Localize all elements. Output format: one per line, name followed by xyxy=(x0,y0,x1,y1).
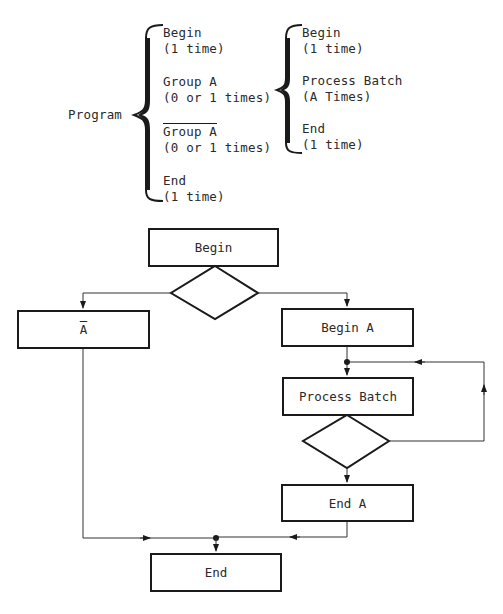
flow-box-not-a-label: A xyxy=(80,322,88,337)
level1-group-a-title: Group A xyxy=(163,74,271,90)
flow-box-begin-a-label: Begin A xyxy=(321,320,374,335)
flow-box-end-label: End xyxy=(205,565,228,580)
level1-not-group-a-title: Group A xyxy=(163,123,217,139)
flow-box-begin-label: Begin xyxy=(195,240,233,255)
flow-box-end-a-label: End A xyxy=(329,496,367,511)
flow-box-end: End xyxy=(150,553,282,592)
flow-box-begin: Begin xyxy=(148,228,279,267)
level1-end-title: End xyxy=(163,173,271,189)
hierarchy-level2: Begin (1 time) Process Batch (A Times) E… xyxy=(302,25,402,153)
level1-begin-title: Begin xyxy=(163,25,271,41)
flow-box-process-batch: Process Batch xyxy=(282,377,414,416)
level1-begin-count: (1 time) xyxy=(163,41,271,57)
level2-begin-count: (1 time) xyxy=(302,41,402,57)
level2-end-count: (1 time) xyxy=(302,137,402,153)
level1-not-group-a-count: (0 or 1 times) xyxy=(163,140,271,156)
decision-diamond-loop xyxy=(303,415,389,468)
flow-box-end-a: End A xyxy=(281,484,414,522)
hierarchy-level1: Begin (1 time) Group A (0 or 1 times) Gr… xyxy=(163,25,271,205)
program-label: Program xyxy=(68,107,122,123)
flow-box-not-a: A xyxy=(17,310,150,349)
level2-process-batch-count: (A Times) xyxy=(302,89,402,105)
decision-diamond-group-a xyxy=(171,266,258,319)
flow-box-process-batch-label: Process Batch xyxy=(299,389,397,404)
level1-end-count: (1 time) xyxy=(163,189,271,205)
level2-process-batch-title: Process Batch xyxy=(302,73,402,89)
flow-box-begin-a: Begin A xyxy=(281,308,414,347)
level1-group-a-count: (0 or 1 times) xyxy=(163,90,271,106)
junction-dot-loop xyxy=(344,359,350,365)
level2-begin-title: Begin xyxy=(302,25,402,41)
level2-end-title: End xyxy=(302,121,402,137)
